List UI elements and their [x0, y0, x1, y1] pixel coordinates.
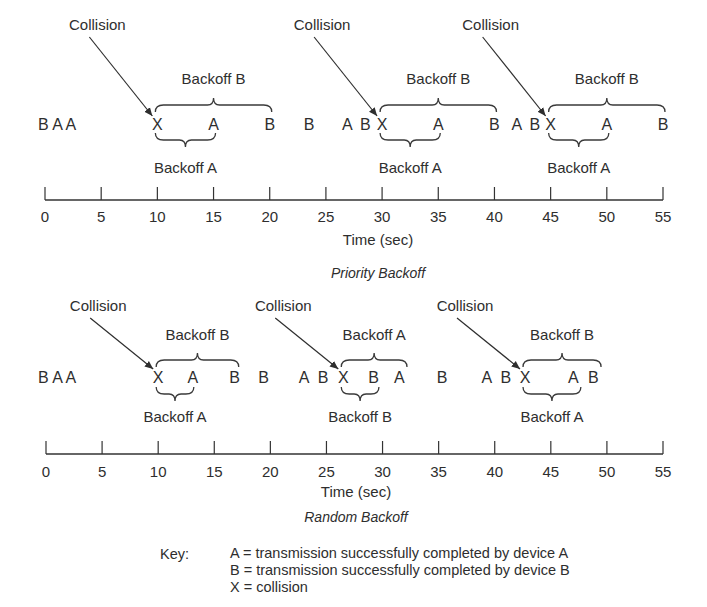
backoff-label-under: Backoff A	[143, 408, 206, 425]
backoff-brace-over	[380, 98, 496, 112]
transmission-event-b: B	[360, 116, 371, 133]
backoff-brace-under	[380, 133, 440, 147]
transmission-event-b: B	[318, 369, 329, 386]
axis-tick-label: 25	[318, 208, 335, 225]
axis-tick-label: 30	[374, 208, 391, 225]
backoff-label-over: Backoff B	[182, 70, 246, 87]
axis-tick-label: 45	[542, 208, 559, 225]
axis-tick-label: 55	[655, 463, 672, 480]
transmission-event-b: B	[368, 369, 379, 386]
backoff-diagram: B A A Time (sec) Priority Backoff B A A …	[0, 0, 707, 607]
priority-backoff-panel: 0510152025303540455055XABBABXABABXABColl…	[41, 16, 672, 225]
backoff-brace-under	[341, 387, 379, 401]
backoff-label-under: Backoff A	[520, 408, 583, 425]
axis-tick-label: 5	[98, 463, 106, 480]
random-panel-title: Random Backoff	[304, 509, 410, 525]
backoff-label-under: Backoff A	[379, 159, 442, 176]
collision-arrow	[90, 318, 153, 369]
transmission-event-a: A	[601, 116, 612, 133]
collision-arrow	[457, 318, 520, 369]
backoff-label-under: Backoff B	[328, 408, 392, 425]
backoff-label-over: Backoff B	[530, 326, 594, 343]
key-entry-b: B = transmission successfully completed …	[230, 562, 570, 579]
backoff-brace-over	[523, 353, 601, 367]
transmission-event-b: B	[437, 369, 448, 386]
transmission-event-b: B	[258, 369, 269, 386]
collision-event: X	[545, 116, 556, 133]
backoff-label-under: Backoff A	[547, 159, 610, 176]
transmission-event-b: B	[501, 369, 512, 386]
priority-panel-title: Priority Backoff	[331, 265, 427, 281]
transmission-event-b: B	[588, 369, 599, 386]
transmission-event-b: B	[304, 116, 315, 133]
collision-label: Collision	[255, 297, 312, 314]
backoff-label-over: Backoff B	[406, 70, 470, 87]
collision-event: X	[338, 369, 349, 386]
axis-tick-label: 15	[205, 208, 222, 225]
axis-tick-label: 15	[206, 463, 223, 480]
transmission-event-b: B	[530, 116, 541, 133]
collision-label: Collision	[70, 297, 127, 314]
key-label: Key:	[160, 546, 189, 562]
collision-arrow	[483, 37, 546, 116]
transmission-event-a: A	[394, 369, 405, 386]
collision-arrow	[89, 37, 152, 116]
axis-tick-label: 10	[149, 208, 166, 225]
axis-tick-label: 50	[598, 208, 615, 225]
backoff-brace-under	[523, 387, 581, 401]
collision-label: Collision	[462, 16, 519, 33]
key-entry-a: A = transmission successfully completed …	[230, 545, 568, 562]
random-pre-sequence: B A A	[38, 369, 77, 386]
priority-axis-label: Time (sec)	[343, 231, 413, 248]
transmission-event-a: A	[482, 369, 493, 386]
transmission-event-a: A	[568, 369, 579, 386]
backoff-label-over: Backoff B	[575, 70, 639, 87]
axis-tick-label: 40	[486, 208, 503, 225]
collision-arrow	[275, 318, 338, 369]
collision-arrow	[314, 37, 377, 116]
collision-label: Collision	[69, 16, 126, 33]
transmission-event-a: A	[188, 369, 199, 386]
backoff-brace-over	[156, 353, 239, 367]
random-backoff-panel: 0510152025303540455055XABBABXBABABXABCol…	[42, 297, 672, 480]
transmission-event-b: B	[264, 116, 275, 133]
collision-event: X	[152, 116, 163, 133]
axis-tick-label: 35	[430, 463, 447, 480]
backoff-brace-over	[549, 98, 665, 112]
transmission-event-b: B	[229, 369, 240, 386]
axis-tick-label: 45	[542, 463, 559, 480]
collision-event: X	[520, 369, 531, 386]
backoff-brace-under	[156, 387, 194, 401]
axis-tick-label: 30	[374, 463, 391, 480]
axis-tick-label: 40	[486, 463, 503, 480]
axis-tick-label: 0	[42, 463, 50, 480]
backoff-brace-over	[155, 98, 271, 112]
transmission-event-a: A	[208, 116, 219, 133]
transmission-event-b: B	[489, 116, 500, 133]
collision-label: Collision	[294, 16, 351, 33]
backoff-label-over: Backoff A	[343, 326, 406, 343]
backoff-brace-under	[155, 133, 215, 147]
key-entry-x: X = collision	[230, 579, 308, 596]
axis-tick-label: 25	[318, 463, 335, 480]
backoff-label-over: Backoff B	[165, 326, 229, 343]
priority-pre-sequence: B A A	[38, 116, 77, 133]
backoff-brace-under	[549, 133, 609, 147]
axis-tick-label: 35	[430, 208, 447, 225]
axis-tick-label: 20	[261, 208, 278, 225]
collision-event: X	[377, 116, 388, 133]
axis-tick-label: 20	[262, 463, 279, 480]
collision-label: Collision	[437, 297, 494, 314]
transmission-event-a: A	[342, 116, 353, 133]
axis-tick-label: 55	[655, 208, 672, 225]
axis-tick-label: 50	[599, 463, 616, 480]
random-axis-label: Time (sec)	[321, 483, 391, 500]
axis-tick-label: 5	[97, 208, 105, 225]
collision-event: X	[153, 369, 164, 386]
transmission-event-a: A	[512, 116, 523, 133]
axis-tick-label: 10	[150, 463, 167, 480]
transmission-event-a: A	[433, 116, 444, 133]
backoff-label-under: Backoff A	[154, 159, 217, 176]
transmission-event-b: B	[658, 116, 669, 133]
transmission-event-a: A	[299, 369, 310, 386]
